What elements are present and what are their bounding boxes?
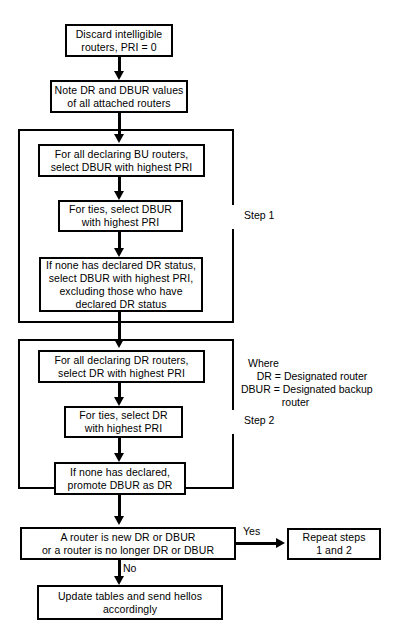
node-dr-select: For all declaring DR routers, select DR … (38, 350, 205, 383)
arrowhead-note-to-step1 (114, 134, 124, 143)
node-decision-router-change: A router is new DR or DBUR or a router i… (20, 527, 236, 560)
edge-label-yes: Yes (243, 525, 260, 538)
node-bu-select-dbur: For all declaring BU routers, select DBU… (38, 144, 205, 177)
connector-decision-yes (236, 542, 279, 545)
connector-dr-ties-to-dr-none (118, 438, 121, 453)
connector-bu-ties-to-bu-none (118, 232, 121, 248)
arrowhead-dr-ties-to-dr-none (114, 453, 124, 462)
arrowhead-decision-yes (276, 538, 285, 548)
flowchart-canvas: Discard intelligible routers, PRI = 0 No… (0, 0, 415, 630)
step1-label-notch (230, 205, 238, 229)
node-dr-ties: For ties, select DR with highest PRI (64, 406, 183, 438)
step2-label-notch (230, 410, 238, 434)
arrowhead-step2-to-decision (114, 516, 124, 525)
node-bu-none-declared: If none has declared DR status, select D… (39, 257, 203, 312)
arrowhead-bu-select-to-bu-ties (114, 191, 124, 200)
connector-bu-select-to-bu-ties (118, 177, 121, 191)
arrowhead-step1-to-step2 (114, 339, 124, 348)
connector-dr-select-to-dr-ties (118, 383, 121, 397)
legend-line-dbur: DBUR = Designated backup (241, 383, 373, 397)
group-label-step-2: Step 2 (244, 414, 274, 427)
node-update-tables: Update tables and send hellos accordingl… (37, 585, 223, 620)
legend-line-dr: DR = Designated router (248, 370, 367, 384)
node-bu-ties: For ties, select DBUR with highest PRI (58, 200, 183, 232)
arrowhead-bu-ties-to-bu-none (114, 248, 124, 257)
arrowhead-discard-to-note (114, 71, 124, 80)
connector-note-to-step1 (118, 113, 121, 134)
legend-line-continuation: router (241, 396, 309, 410)
edge-label-no: No (123, 562, 136, 575)
node-note-values: Note DR and DBUR values of all attached … (50, 80, 188, 113)
group-label-step-1: Step 1 (244, 209, 274, 222)
connector-decision-no (118, 560, 121, 577)
node-repeat-steps: Repeat steps 1 and 2 (287, 528, 381, 560)
legend-heading: Where (248, 357, 279, 371)
node-discard-routers: Discard intelligible routers, PRI = 0 (65, 24, 173, 57)
arrowhead-decision-no (114, 576, 124, 585)
node-dr-none-declared: If none has declared, promote DBUR as DR (54, 462, 186, 495)
connector-discard-to-note (118, 57, 121, 71)
arrowhead-dr-select-to-dr-ties (114, 397, 124, 406)
